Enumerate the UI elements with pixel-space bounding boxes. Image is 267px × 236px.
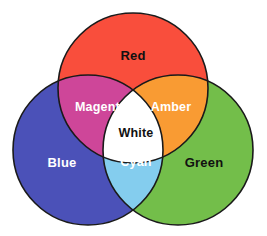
label-cyan: Cyan — [120, 155, 151, 169]
label-green: Green — [185, 155, 224, 170]
label-red: Red — [120, 48, 145, 63]
label-blue: Blue — [48, 155, 77, 170]
venn-diagram: Red Blue Green Magenta Amber Cyan White — [0, 0, 267, 236]
label-magenta: Magenta — [75, 100, 128, 114]
label-white: White — [118, 126, 153, 140]
venn-diagram-canvas: Red Blue Green Magenta Amber Cyan White — [0, 0, 267, 236]
label-amber: Amber — [151, 100, 192, 114]
